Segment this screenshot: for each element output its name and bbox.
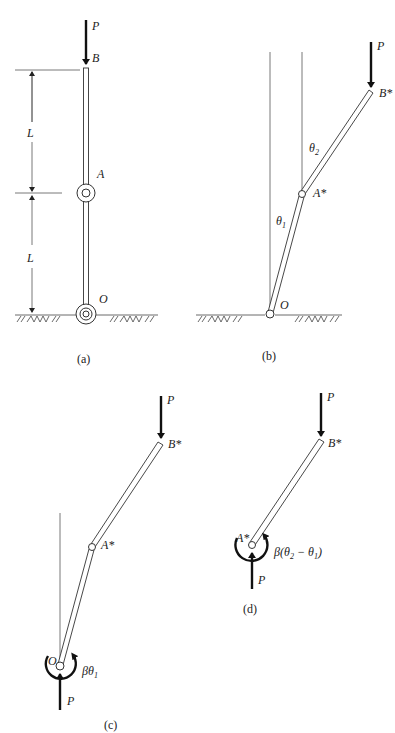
hinge-o-icon (83, 311, 89, 317)
load-label-top: P (326, 390, 335, 404)
caption-c: (c) (104, 718, 117, 732)
point-a-label: A* (312, 186, 326, 200)
lower-bar (268, 196, 304, 313)
hinge-o-icon (266, 310, 274, 318)
moment-label: β(θ2 − θ1) (273, 545, 322, 561)
load-label: P (91, 19, 100, 33)
theta-2-label: θ2 (309, 141, 319, 157)
length-label-lower: L (26, 251, 34, 265)
upper-bar (91, 442, 163, 547)
load-label-top: P (166, 393, 175, 407)
hinge-a-icon (89, 544, 96, 551)
caption-d: (d) (243, 602, 257, 616)
panel-b: P B* A* O θ2 θ1 (b) (196, 39, 392, 363)
load-label: P (376, 39, 385, 53)
point-b-label: B* (168, 437, 181, 451)
point-a-label: A (96, 167, 105, 181)
hinge-a-icon (249, 542, 256, 549)
hinge-o-icon (56, 662, 64, 670)
point-o-label: O (280, 298, 289, 312)
point-b-label: B* (328, 436, 341, 450)
caption-b: (b) (262, 349, 276, 363)
hinge-a-icon (82, 189, 90, 197)
caption-a: (a) (77, 352, 90, 366)
hinge-a-icon (299, 191, 306, 198)
dimension-lines (15, 70, 80, 312)
point-b-label: B (92, 51, 100, 65)
buckling-diagram: P B A O L L (a) (0, 0, 395, 733)
load-label-bottom: P (257, 573, 266, 587)
upper-bar (84, 68, 89, 190)
panel-c: P B* A* O P βθ1 (c) (46, 393, 182, 732)
point-a-label: A* (235, 531, 249, 545)
point-o-label: O (48, 654, 57, 668)
lower-bar (84, 198, 89, 310)
point-a-label: A* (100, 538, 114, 552)
point-o-label: O (99, 292, 108, 306)
theta-1-label: θ1 (276, 214, 286, 230)
moment-label: βθ1 (81, 664, 98, 680)
length-label-upper: L (26, 126, 34, 140)
bar (250, 439, 324, 545)
point-b-label: B* (379, 86, 392, 100)
lower-bar (58, 549, 94, 665)
load-label-bottom: P (66, 694, 75, 708)
panel-a: P B A O L L (a) (15, 19, 158, 366)
panel-d: P B* A* P β(θ2 − θ1) (d) (235, 390, 341, 616)
